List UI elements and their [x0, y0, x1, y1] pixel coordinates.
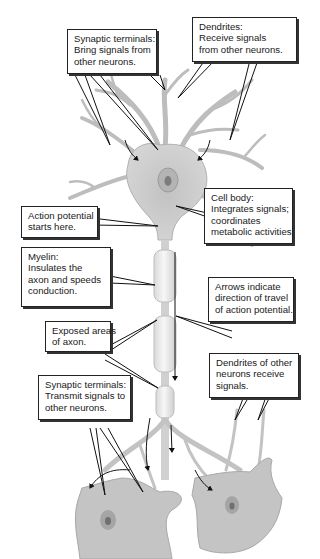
callout-myelin: Myelin: Insulates the axon and speeds co…: [21, 247, 111, 307]
callout-arrows: Arrows indicate direction of travel of a…: [208, 277, 294, 322]
myelin-segment-2: [154, 316, 176, 372]
callout-synaptic-terminals-bottom: Synaptic terminals: Transmit signals to …: [38, 375, 131, 420]
myelin-segment-1: [154, 250, 176, 302]
lower-neuron-left: [75, 478, 181, 559]
callout-action-potential: Action potential starts here.: [21, 206, 98, 238]
callout-dendrites: Dendrites: Receive signals from other ne…: [192, 17, 297, 62]
myelin-segment-3: [156, 386, 174, 418]
callout-dendrites-other: Dendrites of other neurons receive signa…: [209, 353, 299, 398]
callout-synaptic-terminals-top: Synaptic terminals: Bring signals from o…: [67, 29, 157, 74]
callout-exposed-axon: Exposed areas of axon.: [45, 321, 111, 352]
callout-cell-body: Cell body: Integrates signals; coordinat…: [204, 188, 293, 244]
